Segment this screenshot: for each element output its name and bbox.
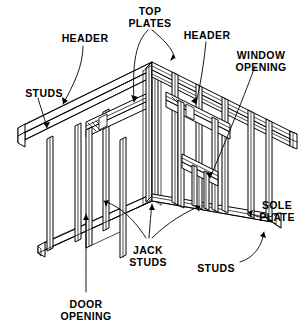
label-sole-plate: SOLE PLATE (249, 200, 305, 223)
corner-post (143, 62, 161, 205)
framing-diagram: TOP PLATES HEADER HEADER WINDOW OPENING … (0, 0, 306, 334)
label-window-opening: WINDOW OPENING (219, 50, 303, 73)
label-top-plates: TOP PLATES (110, 6, 190, 29)
label-studs-right: STUDS (186, 263, 246, 275)
label-door-opening: DOOR OPENING (38, 299, 134, 322)
leader-studs-right (240, 232, 264, 262)
leader-jack-studs-c (152, 206, 200, 238)
label-jack-studs: JACK STUDS (110, 245, 186, 268)
label-header-left: HEADER (45, 33, 125, 45)
label-header-right: HEADER (167, 30, 247, 42)
label-studs-left: STUDS (14, 88, 74, 100)
